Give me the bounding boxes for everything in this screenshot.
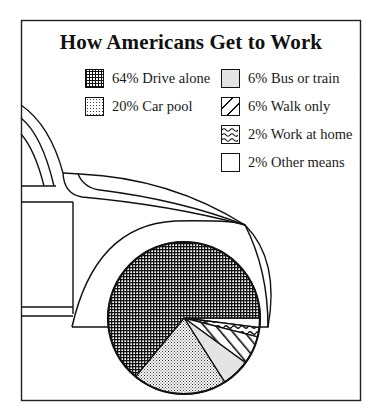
legend-item-bus-or-train: 6% Bus or train xyxy=(221,68,339,88)
legend-label: 64% Drive alone xyxy=(112,70,210,87)
gray-swatch-icon xyxy=(221,69,240,88)
legend-label: 6% Bus or train xyxy=(248,70,339,87)
blank-swatch-icon xyxy=(221,153,240,172)
pie-chart xyxy=(108,242,260,394)
legend-item-car-pool: 20% Car pool xyxy=(85,96,193,116)
legend-label: 6% Walk only xyxy=(248,98,330,115)
dense-grid-swatch-icon xyxy=(85,69,104,88)
legend-label: 20% Car pool xyxy=(112,98,193,115)
chart-title: How Americans Get to Work xyxy=(21,30,361,55)
legend-item-other-means: 2% Other means xyxy=(221,152,345,172)
chart-figure: How Americans Get to Work 64% Drive alon… xyxy=(0,0,381,416)
dots-swatch-icon xyxy=(85,97,104,116)
car-illustration xyxy=(0,0,381,416)
legend-item-walk-only: 6% Walk only xyxy=(221,96,330,116)
waves-swatch-icon xyxy=(221,125,240,144)
legend-item-work-at-home: 2% Work at home xyxy=(221,124,352,144)
legend-label: 2% Work at home xyxy=(248,126,352,143)
diagonal-lines-swatch-icon xyxy=(221,97,240,116)
legend-item-drive-alone: 64% Drive alone xyxy=(85,68,210,88)
legend-label: 2% Other means xyxy=(248,154,345,171)
